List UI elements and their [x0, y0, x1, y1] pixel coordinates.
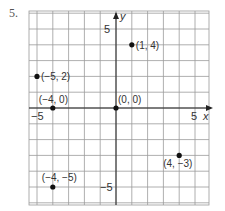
point-label: (−4, −5)	[42, 172, 77, 183]
y-tick-label: 5	[104, 23, 110, 35]
point-label: (−5, 2)	[41, 71, 70, 82]
y-axis-label: y	[119, 10, 127, 22]
data-point	[50, 184, 55, 189]
data-point	[50, 105, 55, 110]
data-point	[129, 42, 134, 47]
y-tick-label: −5	[100, 181, 113, 193]
coordinate-plane: xy−555−5(1, 4)(−5, 2)(−4, 0)(0, 0)(4, −3…	[0, 0, 225, 211]
point-label: (4, −3)	[163, 158, 192, 169]
x-tick-label: −5	[31, 110, 44, 122]
x-axis-label: x	[202, 110, 209, 122]
point-label: (0, 0)	[118, 94, 141, 105]
point-label: (−4, 0)	[39, 94, 68, 105]
data-point	[177, 153, 182, 158]
point-label: (1, 4)	[136, 40, 159, 51]
data-point	[34, 74, 39, 79]
data-point	[113, 105, 118, 110]
x-tick-label: 5	[191, 110, 197, 122]
